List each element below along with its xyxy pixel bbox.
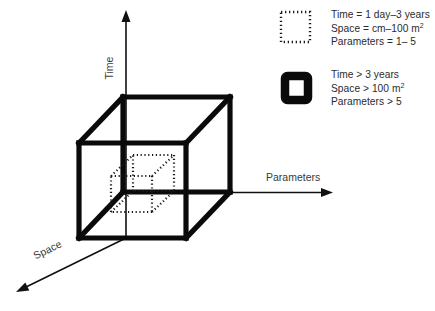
- legend-line-text: Parameters = 1– 5: [331, 36, 416, 47]
- thick-square-icon: [285, 76, 308, 100]
- space-axis-arrowhead: [16, 283, 29, 293]
- dotted-square-icon: [281, 12, 310, 42]
- legend-line-sup: 2: [400, 81, 404, 88]
- axis-label-time: Time: [103, 56, 115, 79]
- outer-cube: [79, 97, 230, 238]
- axis-label-parameters: Parameters: [266, 171, 320, 183]
- legend-line-text: Parameters > 5: [331, 96, 402, 107]
- legend-line: Time = 1 day–3 years: [331, 8, 430, 22]
- legend-line: Parameters = 1– 5: [331, 35, 430, 49]
- legend-line-text: Space > 100 m: [331, 83, 400, 94]
- legend-item-large-scale: Time > 3 years Space > 100 m2 Parameters…: [331, 68, 404, 109]
- legend-line: Space = cm–100 m2: [331, 22, 430, 36]
- axis-label-space: Space: [31, 237, 63, 261]
- legend-line-text: Space = cm–100 m: [331, 23, 420, 34]
- legend-line: Time > 3 years: [331, 68, 404, 82]
- parameters-axis-arrowhead: [321, 188, 333, 197]
- outer-cube-edge-connect-bottom-left: [79, 192, 123, 238]
- outer-cube-edge-connect-bottom-right: [186, 192, 230, 238]
- legend-line: Space > 100 m2: [331, 82, 404, 96]
- legend-line: Parameters > 5: [331, 95, 404, 109]
- legend-line-sup: 2: [420, 21, 424, 28]
- outer-cube-edge-connect-top-right: [186, 97, 230, 143]
- legend-line-text: Time > 3 years: [331, 69, 399, 80]
- axis-space: [16, 238, 126, 292]
- outer-cube-edge-connect-top-left: [79, 97, 123, 143]
- legend-line-text: Time = 1 day–3 years: [331, 9, 430, 20]
- legend-item-small-scale: Time = 1 day–3 years Space = cm–100 m2 P…: [331, 8, 430, 49]
- time-axis-arrowhead: [122, 10, 131, 22]
- space-axis-line: [24, 238, 126, 288]
- inner-cube-edge-connect-top-right: [152, 155, 174, 176]
